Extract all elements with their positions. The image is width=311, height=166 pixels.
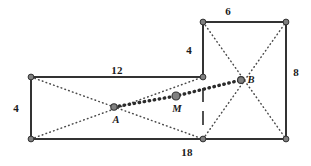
vertex-shared-edge-bottom: [200, 136, 206, 142]
dimension-bottom-width: 18: [181, 147, 192, 158]
point-b-marker: [238, 77, 245, 84]
vertex-right-rect-top-left: [200, 19, 206, 25]
dimension-right-top-width: 6: [225, 6, 231, 17]
vertex-left-rect-bottom-left: [28, 136, 34, 142]
point-a-marker: [111, 104, 117, 110]
vertex-right-rect-top-right: [283, 19, 289, 25]
point-b-label: B: [247, 75, 254, 86]
point-m-marker: [172, 92, 180, 100]
dimension-left-top-width: 12: [111, 65, 122, 76]
vertex-left-rect-top-left: [28, 74, 34, 80]
point-a-label: A: [112, 115, 119, 126]
dimension-right-height: 8: [293, 67, 299, 78]
point-m-label: M: [172, 104, 181, 115]
dimension-right-left-height: 4: [186, 45, 192, 56]
dimension-left-height: 4: [13, 103, 19, 114]
vertex-right-rect-bottom-right: [283, 136, 289, 142]
vertex-shared-edge-top: [200, 74, 206, 80]
geometry-figure: [0, 0, 311, 166]
